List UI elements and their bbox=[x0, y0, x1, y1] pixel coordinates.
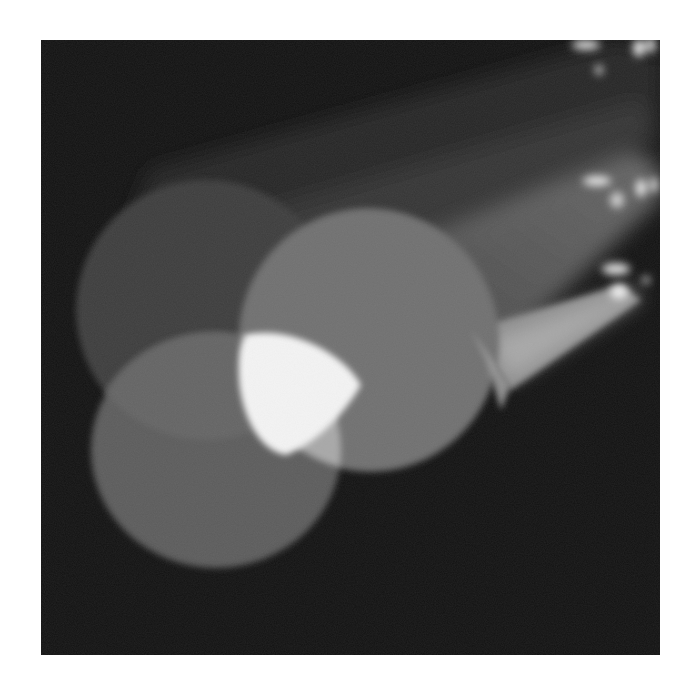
spotlight-photo bbox=[41, 40, 660, 655]
film-grain bbox=[41, 40, 660, 655]
spotlight-scene bbox=[41, 40, 660, 655]
